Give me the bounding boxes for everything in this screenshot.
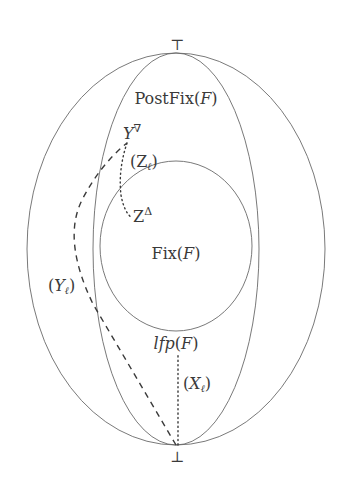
x-sequence-label: (Xℓ) xyxy=(183,374,211,394)
fixpoint-diagram: ⊤ ⊥ PostFix(F) Y∇ (Zℓ) ZΔ Fix(F) (Yℓ) lf… xyxy=(0,0,340,494)
postfix-label: PostFix(F) xyxy=(134,89,217,108)
y-nabla-label: Y∇ xyxy=(123,122,142,143)
lfp-label: lfp(F) xyxy=(154,334,199,353)
y-sequence-dashed-path xyxy=(74,143,176,445)
y-sequence-label: (Yℓ) xyxy=(48,276,75,296)
z-sequence-label: (Zℓ) xyxy=(130,152,158,172)
z-delta-label: ZΔ xyxy=(133,205,152,226)
fix-label: Fix(F) xyxy=(152,244,201,263)
bottom-symbol: ⊥ xyxy=(170,448,184,466)
top-symbol: ⊤ xyxy=(170,36,184,54)
